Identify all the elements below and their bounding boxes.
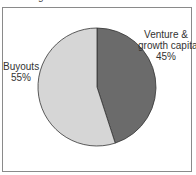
label-buyouts-percent: 55% [3, 72, 39, 83]
label-venture-percent: 45% [138, 51, 194, 62]
label-buyouts-line1: Buyouts [3, 61, 39, 72]
label-buyouts: Buyouts 55% [3, 61, 39, 83]
label-venture-line2: growth capital [138, 40, 194, 51]
label-venture-line1: Venture & [138, 29, 194, 40]
pie-chart [0, 0, 196, 175]
label-venture-growth-capital: Venture & growth capital 45% [138, 29, 194, 62]
